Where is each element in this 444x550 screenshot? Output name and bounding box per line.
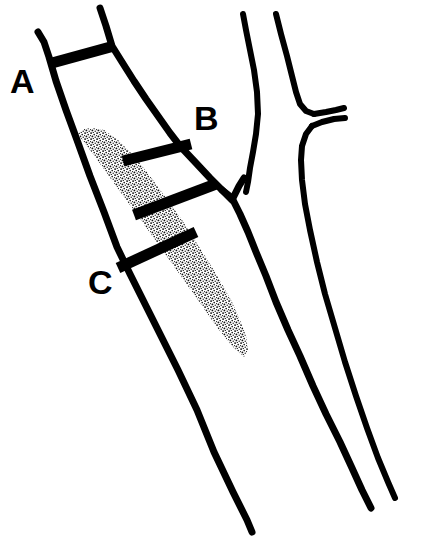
label-b: B: [194, 99, 219, 137]
external-carotid-lateral-wall: [243, 14, 258, 192]
external-carotid-medial-wall: [276, 14, 314, 114]
side-branch-lower-lip: [312, 118, 345, 126]
carotid-diagram-svg: A B C: [0, 0, 444, 550]
right-vessel-descending-wall: [301, 126, 395, 498]
label-c: C: [88, 263, 113, 301]
bifurcation-notch: [222, 178, 244, 200]
measurement-bar-a: [52, 46, 114, 63]
side-branch-upper-lip: [314, 108, 344, 114]
measurement-bar-b-upper: [123, 144, 191, 161]
lower-vessel-right-wall: [232, 198, 371, 508]
label-a: A: [10, 62, 35, 100]
figure-root: A B C: [0, 0, 444, 550]
